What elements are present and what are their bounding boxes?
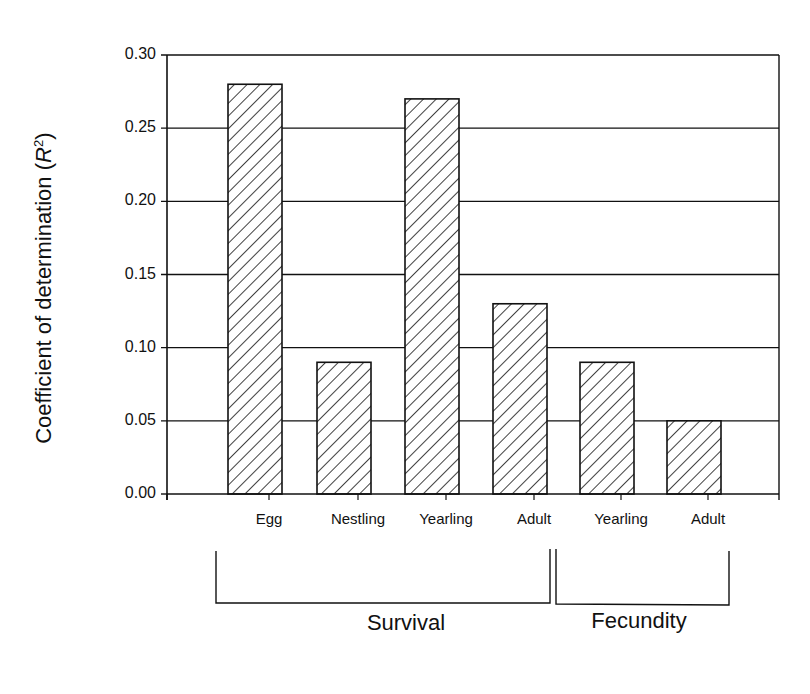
y-tick-label: 0.15 — [100, 265, 156, 283]
y-tick-label: 0.10 — [100, 338, 156, 356]
x-tick-label: Yearling — [576, 510, 666, 527]
x-tick-label: Yearling — [401, 510, 491, 527]
group-brackets — [216, 549, 729, 605]
x-tick-label: Adult — [489, 510, 579, 527]
x-tick-label: Adult — [663, 510, 753, 527]
bar-nestling — [317, 362, 371, 494]
group-label-fecundity: Fecundity — [539, 608, 739, 634]
x-tick-label: Egg — [224, 510, 314, 527]
y-tick-label: 0.05 — [100, 411, 156, 429]
bracket-survival — [216, 549, 550, 603]
bar-egg — [228, 84, 282, 494]
bracket-fecundity — [556, 549, 729, 605]
group-label-survival: Survival — [306, 610, 506, 636]
y-tick-label: 0.20 — [100, 191, 156, 209]
y-tick-label: 0.30 — [100, 45, 156, 63]
bar-yearling — [580, 362, 634, 494]
y-axis-label: Coefficient of determination (R2) — [31, 78, 57, 498]
y-tick-label: 0.25 — [100, 118, 156, 136]
y-tick-label: 0.00 — [100, 484, 156, 502]
bar-adult — [493, 304, 547, 494]
bar-yearling — [405, 99, 459, 494]
bar-adult — [667, 421, 721, 494]
bars — [228, 84, 721, 494]
x-tick-label: Nestling — [313, 510, 403, 527]
